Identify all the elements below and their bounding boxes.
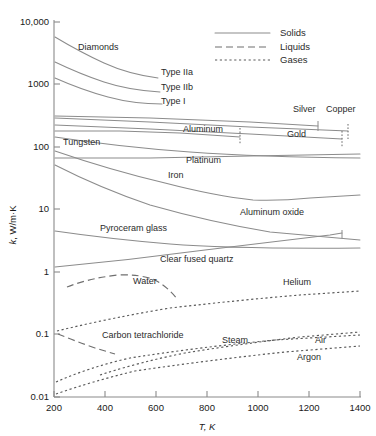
label-pyroceram-glass: Pyroceram glass	[100, 223, 168, 233]
y-tick-10000: 10,000	[20, 16, 49, 27]
svg-text:k, W/m·K: k, W/m·K	[7, 205, 18, 245]
x-tick-1000: 1000	[247, 402, 268, 413]
x-axis-title: T, K	[199, 421, 216, 432]
curve-labels: Diamonds Type IIa Type IIb Type I Silver…	[63, 42, 356, 362]
label-argon: Argon	[297, 352, 321, 362]
y-tick-1000: 1000	[28, 78, 49, 89]
y-tick-100: 100	[33, 141, 49, 152]
x-tick-400: 400	[97, 402, 113, 413]
label-carbon-tetrachloride: Carbon tetrachloride	[102, 330, 184, 340]
chart-canvas: 10,000 1000 100 10 1 0.1 0.01 200 400 60…	[0, 0, 376, 436]
label-air: Air	[315, 335, 326, 345]
label-gold: Gold	[287, 129, 306, 139]
x-tick-labels: 200 400 600 800 1000 1200 1400	[46, 402, 371, 413]
x-tick-800: 800	[199, 402, 215, 413]
label-type-i: Type I	[161, 96, 186, 106]
legend-label-solids: Solids	[280, 27, 306, 38]
legend: Solids Liquids Gases	[215, 27, 310, 65]
label-type-iia: Type IIa	[161, 67, 193, 77]
label-helium: Helium	[283, 277, 311, 287]
y-tick-1: 1	[44, 266, 49, 277]
y-tick-0.01: 0.01	[31, 391, 50, 402]
label-type-iib: Type IIb	[161, 82, 193, 92]
metal-curves	[55, 116, 360, 240]
x-tick-200: 200	[46, 402, 62, 413]
label-silver: Silver	[293, 104, 316, 114]
curve-pyroceram-glass	[55, 231, 360, 248]
label-water: Water	[133, 276, 157, 286]
y-axis-title: k, W/m·K	[7, 205, 18, 245]
x-tick-600: 600	[148, 402, 164, 413]
label-tungsten: Tungsten	[63, 137, 100, 147]
legend-label-gases: Gases	[280, 54, 308, 65]
label-aluminum-oxide: Aluminum oxide	[240, 207, 304, 217]
curve-helium	[57, 291, 360, 331]
label-clear-fused-quartz: Clear fused quartz	[160, 254, 234, 264]
label-steam: Steam	[222, 335, 248, 345]
label-aluminum: Aluminum	[183, 124, 223, 134]
label-diamonds: Diamonds	[78, 42, 119, 52]
label-copper: Copper	[326, 104, 356, 114]
y-tick-labels: 10,000 1000 100 10 1 0.1 0.01	[20, 16, 49, 402]
y-axis-title-units: , W/m·K	[7, 205, 18, 240]
curve-water	[67, 275, 178, 300]
label-platinum: Platinum	[186, 155, 221, 165]
y-tick-10: 10	[38, 203, 49, 214]
y-tick-0.1: 0.1	[36, 328, 49, 339]
label-iron: Iron	[168, 170, 184, 180]
liquid-curves	[58, 275, 178, 354]
x-tick-1200: 1200	[298, 402, 319, 413]
curve-type-iib	[55, 62, 160, 92]
x-tick-marks	[54, 391, 360, 397]
legend-label-liquids: Liquids	[280, 41, 310, 52]
thermal-conductivity-chart: 10,000 1000 100 10 1 0.1 0.01 200 400 60…	[0, 0, 376, 436]
x-tick-1400: 1400	[349, 402, 370, 413]
